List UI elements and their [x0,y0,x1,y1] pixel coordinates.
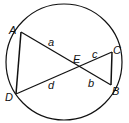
chord-diagram: A C B D E a c b d [0,0,129,123]
point-label-A: A [8,24,16,36]
segment-label-c: c [92,48,98,60]
segment-label-d: d [48,79,55,91]
segment-label-b: b [88,77,94,89]
point-label-C: C [113,44,121,56]
segment-CB [111,52,112,85]
chord-DC [16,52,112,94]
circle [6,4,122,120]
point-label-D: D [5,91,13,103]
segment-AD [16,32,21,94]
point-label-B: B [112,85,119,97]
segment-label-a: a [48,36,54,48]
point-label-E: E [73,53,81,65]
